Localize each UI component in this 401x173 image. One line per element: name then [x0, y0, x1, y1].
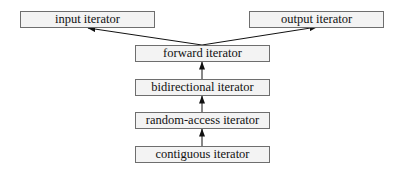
node-label: output iterator [281, 12, 352, 26]
node-output-iterator: output iterator [249, 11, 384, 28]
edge-forward-to-output [202, 27, 317, 45]
node-input-iterator: input iterator [20, 11, 155, 28]
node-bidirectional-iterator: bidirectional iterator [135, 79, 270, 96]
node-label: forward iterator [163, 46, 242, 60]
node-random-access-iterator: random-access iterator [135, 112, 270, 129]
iterator-hierarchy-diagram: input iterator output iterator forward i… [0, 0, 401, 173]
node-label: contiguous iterator [155, 147, 249, 161]
node-label: input iterator [55, 12, 120, 26]
node-forward-iterator: forward iterator [135, 45, 270, 62]
edge-forward-to-input [88, 28, 202, 45]
node-contiguous-iterator: contiguous iterator [135, 146, 270, 163]
node-label: bidirectional iterator [151, 80, 253, 94]
node-label: random-access iterator [146, 113, 259, 127]
